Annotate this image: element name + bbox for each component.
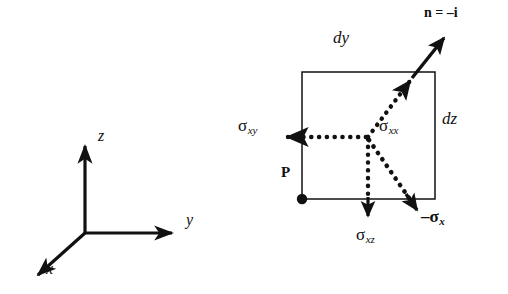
axis-label-y: y <box>186 212 193 228</box>
dimension-label-dy: dy <box>333 29 349 46</box>
sigma-xx-subscript: xx <box>389 124 399 136</box>
stress-element-figure: x y z dy dz P n = –i σxx σxy σxz –σx <box>0 0 508 294</box>
axis-label-x: x <box>46 261 53 277</box>
sigma-xx-symbol: σ <box>379 116 388 135</box>
figure-canvas <box>0 0 508 294</box>
minus-sigma-x-subscript: x <box>439 215 445 227</box>
axis-label-z: z <box>98 128 104 144</box>
point-label-p: P <box>281 165 290 180</box>
sigma-xz-label: σxz <box>356 226 375 245</box>
coordinate-triad <box>38 146 172 275</box>
minus-sigma-x-symbol: –σ <box>421 207 439 226</box>
minus-sigma-x-label: –σx <box>421 208 445 227</box>
sigma-xz-subscript: xz <box>366 233 375 245</box>
sigma-xy-subscript: xy <box>248 124 258 136</box>
sigma-xz-symbol: σ <box>356 225 365 244</box>
sigma-xy-symbol: σ <box>238 116 247 135</box>
normal-vector-label: n = –i <box>424 6 458 20</box>
dimension-label-dz: dz <box>442 110 457 127</box>
sigma-xx-label: σxx <box>379 117 398 136</box>
point-p-dot <box>297 194 307 204</box>
sigma-xy-label: σxy <box>238 117 257 136</box>
